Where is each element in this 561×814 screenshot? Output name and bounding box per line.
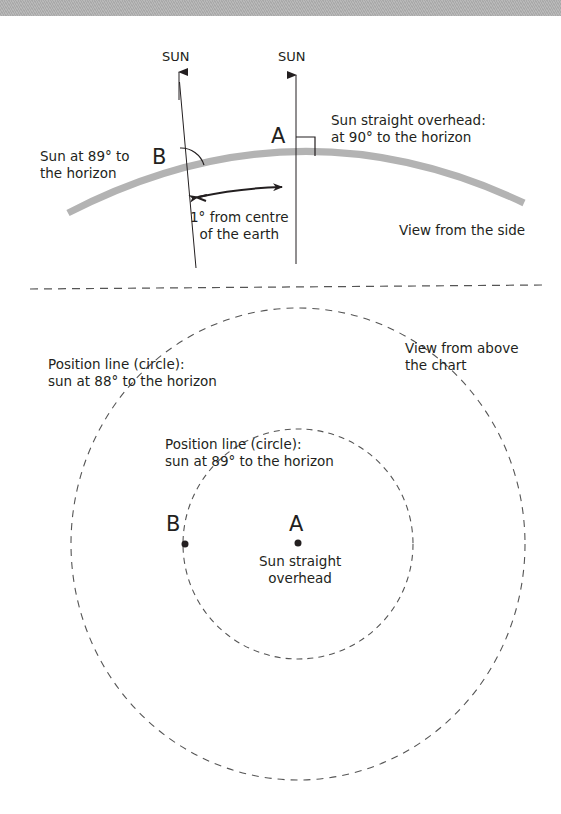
side-point-a-label: A	[271, 125, 285, 147]
outer-circle-caption: Position line (circle): sun at 88° to th…	[48, 356, 217, 390]
inner-circle-caption: Position line (circle): sun at 89° to th…	[165, 436, 334, 470]
point-b-dot	[182, 541, 189, 548]
angle-distance-arrow	[198, 187, 282, 197]
point-a-dot	[295, 540, 302, 547]
side-point-b-label: B	[152, 146, 166, 168]
section-divider	[30, 285, 542, 289]
side-view-caption: View from the side	[399, 222, 525, 239]
top-point-a-label: A	[289, 513, 303, 535]
sun-label-a: SUN	[278, 48, 306, 65]
center-caption: Sun straight overhead	[259, 553, 341, 587]
top-view-caption: View from above the chart	[405, 340, 518, 374]
sun-label-b: SUN	[162, 48, 190, 65]
sun-a-caption: Sun straight overhead: at 90° to the hor…	[331, 112, 486, 146]
angle-caption: 1° from centre of the earth	[190, 209, 288, 243]
top-point-b-label: B	[166, 513, 180, 535]
sun-b-caption: Sun at 89° to the horizon	[40, 148, 130, 182]
